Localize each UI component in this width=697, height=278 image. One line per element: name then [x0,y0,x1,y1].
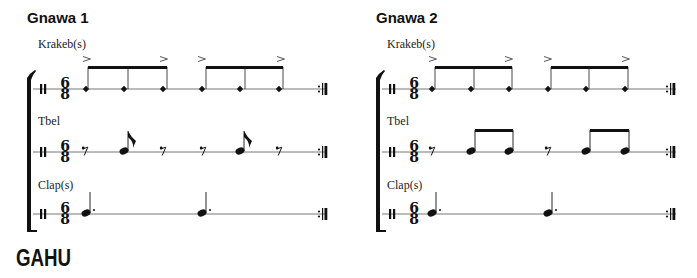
accent-icon [622,57,630,62]
system-bracket [27,70,37,232]
time-signature-6-8 [409,75,419,102]
score-notation: 6 8 [0,0,697,278]
accent-icon [429,57,437,62]
system-gnawa-2 [376,57,676,233]
system-bracket [376,70,386,232]
system-gnawa-1 [27,57,327,233]
accent-icon [277,57,285,62]
time-signature-6-8 [60,75,70,102]
accent-icon [544,57,552,62]
krakebs-measure [429,57,630,93]
time-signature-6-8 [409,200,419,227]
time-signature-6-8 [60,138,70,165]
krakebs-measure [83,57,285,93]
accent-icon [160,57,168,62]
time-signature-6-8 [60,200,70,227]
time-signature-6-8 [409,138,419,165]
accent-icon [198,57,206,62]
accent-icon [83,57,91,62]
accent-icon [505,57,513,62]
